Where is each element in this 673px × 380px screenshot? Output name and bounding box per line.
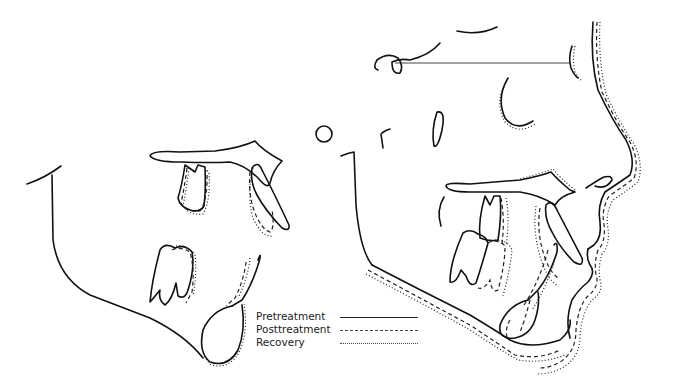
- soft-tissue-recovery: [600, 22, 641, 254]
- mandible-outline: [27, 166, 203, 358]
- legend-label: Recovery: [256, 336, 340, 349]
- legend-item-pretreatment: Pretreatment: [256, 310, 418, 323]
- sella-arc: [457, 27, 497, 33]
- symphysis: [202, 305, 244, 364]
- dotted-line-swatch: [340, 343, 418, 344]
- soft-tissue-posttreatment: [597, 22, 637, 250]
- pterygoid-arc: [439, 197, 444, 226]
- lips-chin: [568, 249, 593, 338]
- left-partial-tracing: [27, 141, 289, 366]
- legend-item-recovery: Recovery: [256, 336, 418, 349]
- legend: Pretreatment Posttreatment Recovery: [256, 310, 418, 349]
- symphysis-right: [500, 292, 539, 338]
- legend-item-posttreatment: Posttreatment: [256, 323, 418, 336]
- lower-molar: [150, 245, 193, 305]
- upper-molar-right: [480, 196, 501, 241]
- palate-right: [446, 172, 575, 205]
- upper-incisor-right: [546, 203, 583, 265]
- nostril: [586, 176, 612, 188]
- ptm-fissure: [433, 112, 443, 146]
- orbit: [501, 78, 533, 126]
- upper-incisor: [252, 164, 290, 229]
- legend-label: Pretreatment: [256, 310, 340, 323]
- legend-label: Posttreatment: [256, 323, 340, 336]
- dashed-line-swatch: [340, 330, 418, 331]
- palatal-plane: [150, 141, 282, 186]
- ramus: [341, 152, 372, 265]
- ear-mark: [381, 129, 390, 148]
- solid-line-swatch: [340, 317, 418, 318]
- frontal-squiggle: [375, 43, 440, 73]
- porion: [316, 126, 332, 142]
